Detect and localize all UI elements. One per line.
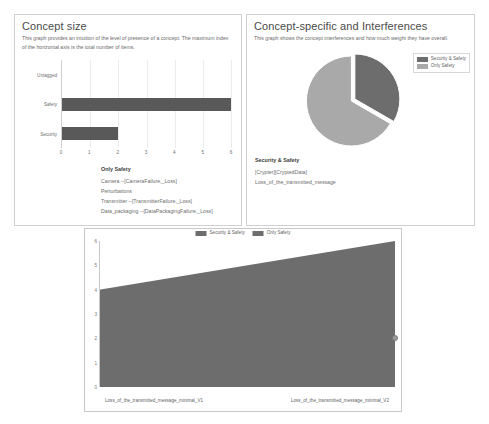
y-axis-tick-label: 4 [94, 287, 97, 292]
security-safety-heading: Security & Safety [255, 157, 466, 163]
y-axis-tick-label: 1 [94, 360, 97, 365]
legend-swatch-icon [253, 231, 264, 236]
x-axis-tick-label: 5 [201, 150, 204, 155]
x-axis-tick-label: 3 [145, 150, 148, 155]
bar-chart-bar: Security [62, 127, 118, 140]
area-chart-y-axis [99, 241, 100, 387]
legend-entry-only-safety: Only Safety [417, 63, 466, 70]
y-axis-category-label: Safety [44, 102, 57, 107]
concept-interferences-panel: Concept-specific and Interferences This … [246, 14, 475, 226]
pie-chart-graphic [299, 51, 409, 151]
y-axis-tick-label: 6 [94, 239, 97, 244]
report-page: Concept size This graph provides an intu… [0, 0, 489, 424]
interferences-pie-chart: Security & Safety Only Safety [247, 47, 474, 153]
x-axis-tick-label: 1 [88, 150, 91, 155]
area-chart-plot-area: 0123456 [99, 241, 395, 387]
bar-chart-x-axis: 0123456 [61, 150, 231, 162]
legend-entry-security-safety: Security & Safety [417, 56, 466, 63]
legend-swatch-icon [417, 64, 428, 69]
legend-label: Security & Safety [210, 230, 245, 237]
area-chart-x-axis-labels: Loss_of_the_transmitted_message_minimal_… [99, 398, 395, 403]
x-axis-tick-label: 6 [230, 150, 233, 155]
legend-entry-only-safety: Only Safety [253, 230, 291, 237]
concept-size-bar-chart: UntaggedSafetySecurity 0123456 [21, 58, 233, 162]
bar-fill [62, 98, 231, 111]
legend-label: Only Safety [431, 63, 455, 70]
list-item: Transmitter --[TransmitterFailure,_Loss] [101, 196, 233, 206]
area-chart-marker [392, 335, 398, 341]
y-axis-tick-label: 2 [94, 336, 97, 341]
legend-swatch-icon [417, 57, 428, 62]
list-item: Perturbations [101, 186, 233, 196]
y-axis-category-label: Security [40, 131, 57, 136]
concept-size-panel: Concept size This graph provides an intu… [14, 14, 242, 226]
list-item: [Crypter][CryptedData] [255, 167, 466, 177]
x-axis-tick-label: 2 [116, 150, 119, 155]
panel-title-concept-size: Concept size [15, 15, 241, 34]
y-axis-tick-label: 0 [94, 385, 97, 390]
bar-fill [62, 127, 118, 140]
x-axis-tick-label: 0 [60, 150, 63, 155]
list-item: Loss_of_the_transmitted_message [255, 177, 466, 187]
legend-swatch-icon [196, 231, 207, 236]
area-chart-legend: Security & Safety Only Safety [196, 230, 291, 237]
panel-title-interferences: Concept-specific and Interferences [247, 15, 474, 34]
x-axis-tick-label: 4 [173, 150, 176, 155]
only-safety-heading: Only Safety [101, 166, 233, 172]
pie-chart-legend: Security & Safety Only Safety [413, 53, 470, 73]
area-chart-graphic [99, 241, 395, 387]
y-axis-category-label: Untagged [37, 72, 57, 77]
list-item: Data_packaging --[DataPackagingFailure,_… [101, 206, 233, 216]
x-axis-tick-label: Loss_of_the_transmitted_message_minimal_… [105, 398, 203, 403]
panel-description-interferences: This graph shows the concept interferenc… [247, 34, 474, 47]
x-axis-tick-label: Loss_of_the_transmitted_message_minimal_… [291, 398, 389, 403]
area-series-security-safety [99, 241, 395, 387]
y-axis-tick-label: 3 [94, 312, 97, 317]
only-safety-list: Only Safety Camera --[CameraFailure,_Los… [93, 162, 241, 216]
list-item: Camera --[CameraFailure,_Loss] [101, 176, 233, 186]
legend-entry-security-safety: Security & Safety [196, 230, 245, 237]
panel-description-concept-size: This graph provides an intuition of the … [15, 34, 241, 56]
y-axis-tick-label: 5 [94, 263, 97, 268]
grid-line [231, 60, 232, 148]
message-loss-area-chart: Security & Safety Only Safety 0123456 Lo… [84, 228, 402, 412]
bar-chart-plot-area: UntaggedSafetySecurity [61, 60, 231, 148]
legend-label: Only Safety [267, 230, 291, 237]
bar-chart-bar: Safety [62, 98, 231, 111]
legend-label: Security & Safety [431, 56, 466, 63]
security-safety-list: Security & Safety [Crypter][CryptedData]… [247, 153, 474, 187]
